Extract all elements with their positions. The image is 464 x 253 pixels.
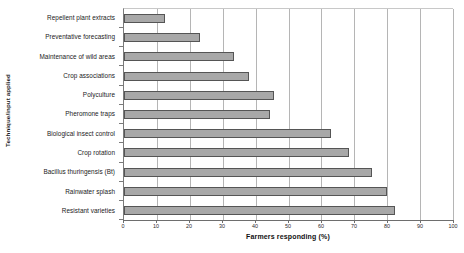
bar-row bbox=[124, 9, 453, 28]
bar bbox=[124, 33, 200, 42]
bar-row bbox=[124, 182, 453, 201]
x-axis-tick-label: 40 bbox=[252, 223, 258, 229]
gridline bbox=[453, 9, 454, 220]
bar bbox=[124, 187, 387, 196]
category-label: Bacillus thuringensis (Bt) bbox=[14, 162, 119, 181]
bar bbox=[124, 148, 349, 157]
category-label: Preventative forecasting bbox=[14, 27, 119, 46]
x-axis-tick-label: 10 bbox=[153, 223, 159, 229]
plot-area bbox=[123, 8, 453, 220]
bar bbox=[124, 14, 165, 23]
bars-layer bbox=[124, 9, 453, 220]
bar-row bbox=[124, 28, 453, 47]
x-axis-tick-labels: 0102030405060708090100 bbox=[123, 223, 453, 233]
bar bbox=[124, 110, 270, 119]
x-axis-tick-label: 70 bbox=[351, 223, 357, 229]
bar-row bbox=[124, 143, 453, 162]
x-axis-tick-label: 60 bbox=[318, 223, 324, 229]
bar bbox=[124, 129, 331, 138]
x-axis-tick-label: 80 bbox=[384, 223, 390, 229]
category-label: Polyculture bbox=[14, 85, 119, 104]
category-label: Resistant varieties bbox=[14, 201, 119, 220]
bar bbox=[124, 72, 249, 81]
bar-row bbox=[124, 47, 453, 66]
category-label: Crop rotation bbox=[14, 143, 119, 162]
x-axis-tick-label: 100 bbox=[449, 223, 458, 229]
bar-row bbox=[124, 86, 453, 105]
bar-row bbox=[124, 124, 453, 143]
bar-row bbox=[124, 67, 453, 86]
bar-row bbox=[124, 105, 453, 124]
x-axis-tick-label: 0 bbox=[122, 223, 125, 229]
category-label: Rainwater splash bbox=[14, 181, 119, 200]
category-label: Crop associations bbox=[14, 66, 119, 85]
bar bbox=[124, 206, 395, 215]
bar bbox=[124, 168, 372, 177]
x-axis-tick-label: 90 bbox=[417, 223, 423, 229]
category-label: Pheromone traps bbox=[14, 104, 119, 123]
y-axis-title: Technique/input applied bbox=[0, 0, 14, 220]
category-label: Maintenance of wild areas bbox=[14, 47, 119, 66]
category-label-column: Repellent plant extractsPreventative for… bbox=[14, 8, 119, 220]
x-axis-title: Farmers responding (%) bbox=[123, 233, 453, 240]
x-axis-tick-label: 30 bbox=[219, 223, 225, 229]
category-label: Repellent plant extracts bbox=[14, 8, 119, 27]
bar-chart: Technique/input applied Repellent plant … bbox=[0, 0, 464, 253]
x-axis-tick-label: 20 bbox=[186, 223, 192, 229]
bar-row bbox=[124, 201, 453, 220]
bar-row bbox=[124, 163, 453, 182]
bar bbox=[124, 52, 234, 61]
category-label: Biological insect control bbox=[14, 124, 119, 143]
x-axis-tick-label: 50 bbox=[285, 223, 291, 229]
y-axis-title-text: Technique/input applied bbox=[4, 74, 11, 147]
bar bbox=[124, 91, 274, 100]
